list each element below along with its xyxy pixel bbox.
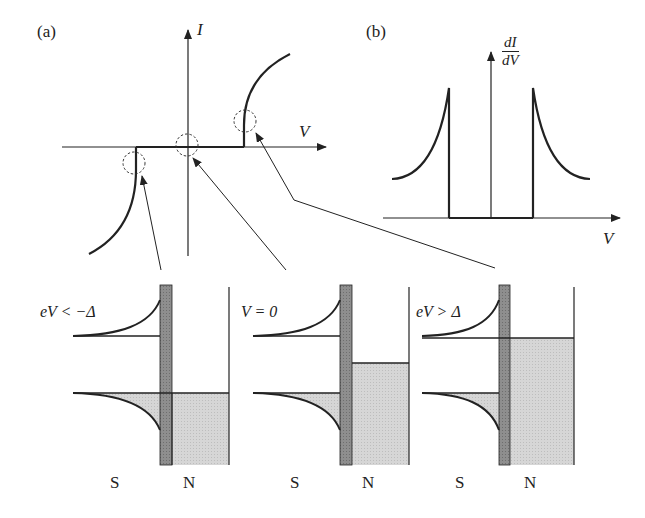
didv-peak-negative (392, 88, 449, 218)
iv-curve-negative (89, 147, 136, 254)
n-label-2: N (362, 473, 374, 493)
didv-numerator: dI (502, 34, 519, 52)
energy-diagram-negative (73, 285, 229, 465)
didv-peak-positive (533, 88, 590, 218)
v-axis-label-a: V (299, 122, 309, 142)
arrow-zero (193, 158, 286, 270)
iv-plot (62, 30, 495, 270)
i-axis-label: I (197, 20, 203, 40)
condition-zero: V = 0 (241, 303, 277, 321)
diagram-canvas (0, 0, 645, 518)
panel-a-label: (a) (37, 22, 56, 42)
v-axis-label-b: V (603, 229, 613, 249)
s-label-3: S (455, 473, 464, 493)
arrow-negative (142, 176, 161, 270)
didv-axis-label: dI dV (502, 34, 519, 69)
arrow-positive (256, 133, 495, 268)
marker-circle-negative (123, 152, 145, 174)
s-label-1: S (110, 473, 119, 493)
panel-b-label: (b) (366, 22, 386, 42)
marker-circle-zero (176, 134, 198, 156)
iv-curve-positive (244, 54, 290, 147)
s-label-2: S (290, 473, 299, 493)
n-label-3: N (524, 473, 536, 493)
n-label-1: N (183, 473, 195, 493)
didv-plot (383, 52, 620, 218)
condition-positive: eV > Δ (416, 303, 461, 321)
condition-negative: eV < −Δ (40, 303, 96, 321)
didv-denominator: dV (502, 52, 519, 69)
